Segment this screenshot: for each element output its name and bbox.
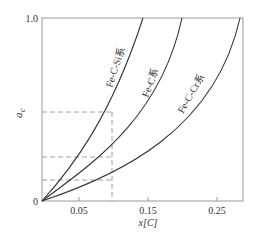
y-axis-label: a c <box>12 108 27 118</box>
x-tick-label: 0.05 <box>70 205 88 216</box>
origin-label: 0 <box>33 196 38 207</box>
x-tick-label: 0.15 <box>139 205 157 216</box>
x-axis-label: x[C] <box>138 217 158 228</box>
label-fe-c-cr: Fe-C-Cr系 <box>175 72 206 115</box>
curve-fe-c-cr <box>42 18 240 201</box>
svg-text:c: c <box>18 108 27 112</box>
y-tick-top: 1.0 <box>26 13 39 24</box>
curve-fe-c <box>42 18 182 201</box>
x-tick-label: 0.25 <box>208 205 226 216</box>
curve-fe-c-si <box>42 18 143 201</box>
label-fe-c-si: Fe-C-Si系 <box>103 46 126 89</box>
chart: Fe-C-Si系 Fe-C系 Fe-C-Cr系 1.0 0 0.05 0.15 … <box>0 0 257 243</box>
